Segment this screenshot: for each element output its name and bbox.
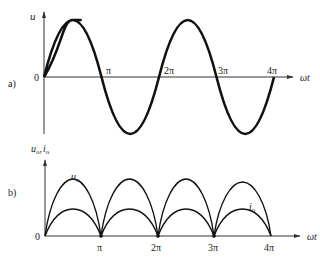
panel-a-tick-4pi: 4π [267,65,277,76]
panel-a-sine-wave: u 0 a) π 2π 3π 4π ωt [8,10,310,134]
panel-a-tick-2pi: 2π [164,65,174,76]
panel-b-tick-4pi: 4π [264,242,274,253]
panel-a-tick-3pi: 3π [218,65,228,76]
panel-b-node-2pi [156,234,160,238]
panel-a-y-axis-label: u [30,10,36,22]
panel-b-uo-curve [45,179,271,236]
panel-b-tick-pi: π [97,242,102,253]
panel-b-node-pi [99,234,103,238]
waveform-diagram: u 0 a) π 2π 3π 4π ωt uo,io uo io 0 b) π [0,0,320,258]
panel-b-tick-3pi: 3π [208,242,218,253]
panel-b-node-3pi [212,234,216,238]
panel-b-io-label: io [249,201,256,214]
panel-a-x-axis-label: ωt [300,72,310,83]
panel-b-origin-label: 0 [35,231,40,242]
panel-b-y-axis-label: uo,io [31,143,50,156]
panel-a-tick-pi: π [106,65,111,76]
panel-b-x-axis-label: ωt [307,231,317,242]
panel-b-tick-2pi: 2π [151,242,161,253]
panel-b-label: b) [8,187,16,199]
panel-b-rectified-waves: uo,io uo io 0 b) π 2π 3π 4π ωt [8,143,317,253]
panel-b-uo-label: uo [71,171,80,184]
panel-a-origin-label: 0 [34,72,39,83]
panel-a-label: a) [8,78,16,90]
